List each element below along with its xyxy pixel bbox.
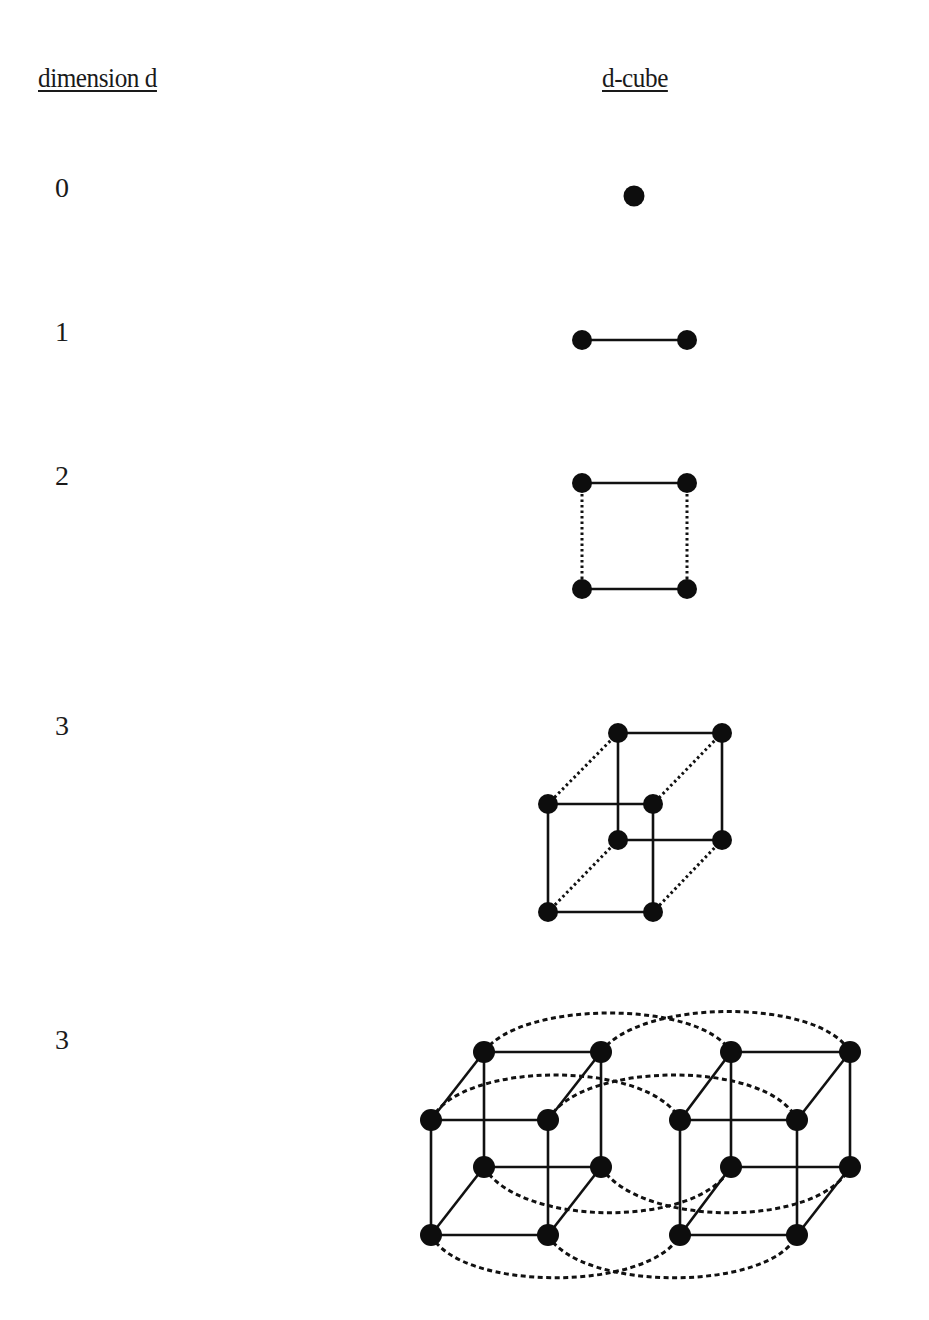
vertex — [537, 1224, 559, 1246]
vertex — [786, 1109, 808, 1131]
vertex — [624, 186, 645, 207]
vertex — [538, 794, 558, 814]
left-cube — [420, 1041, 612, 1246]
vertex — [677, 579, 697, 599]
vertex — [712, 723, 732, 743]
vertex — [608, 723, 628, 743]
d-cube-figures: .edge { stroke: #111; stroke-width: 2.6;… — [0, 0, 929, 1320]
vertex — [420, 1109, 442, 1131]
right-cube — [669, 1041, 861, 1246]
vertex — [669, 1224, 691, 1246]
vertex — [590, 1041, 612, 1063]
vertex — [572, 330, 592, 350]
vertex — [712, 830, 732, 850]
vertex — [720, 1156, 742, 1178]
figure-0-point — [624, 186, 645, 207]
vertex — [538, 902, 558, 922]
figure-2-square — [572, 473, 697, 599]
figure-1-segment — [572, 330, 697, 350]
vertex — [420, 1224, 442, 1246]
figure-4-linked-cubes — [420, 1012, 861, 1278]
vertex — [677, 330, 697, 350]
vertex — [643, 902, 663, 922]
vertex — [590, 1156, 612, 1178]
vertex — [720, 1041, 742, 1063]
vertex — [786, 1224, 808, 1246]
vertex — [572, 579, 592, 599]
vertex — [839, 1156, 861, 1178]
vertex — [537, 1109, 559, 1131]
vertex — [669, 1109, 691, 1131]
vertex — [643, 794, 663, 814]
vertex — [473, 1156, 495, 1178]
vertex — [608, 830, 628, 850]
vertex — [839, 1041, 861, 1063]
figure-3-cube — [538, 723, 732, 922]
vertex — [677, 473, 697, 493]
vertex — [572, 473, 592, 493]
vertex — [473, 1041, 495, 1063]
